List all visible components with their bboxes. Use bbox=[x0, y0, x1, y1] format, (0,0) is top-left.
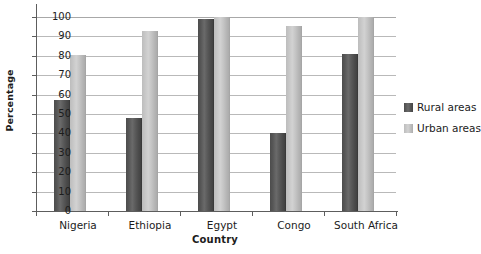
x-tick-mark bbox=[396, 212, 397, 216]
y-tick-label: 10 bbox=[31, 187, 71, 197]
x-category-label: South Africa bbox=[306, 219, 426, 231]
plot-area: NigeriaEthiopiaEgyptCongoSouth Africa bbox=[36, 4, 396, 211]
x-tick-mark bbox=[252, 212, 253, 216]
x-axis-title: Country bbox=[0, 234, 430, 245]
bar-egypt-urban bbox=[214, 17, 230, 211]
bar-south-africa-urban bbox=[358, 17, 374, 211]
y-axis-title: Percentage bbox=[4, 72, 15, 132]
y-tick-label: 90 bbox=[31, 31, 71, 41]
y-tick-label: 70 bbox=[31, 70, 71, 80]
bar-south-africa-rural bbox=[342, 54, 358, 211]
y-tick-label: 20 bbox=[31, 167, 71, 177]
legend-swatch-rural-icon bbox=[404, 103, 413, 112]
bar-ethiopia-rural bbox=[126, 118, 142, 211]
x-tick-mark bbox=[108, 212, 109, 216]
y-tick-label: 100 bbox=[31, 12, 71, 22]
bar-egypt-rural bbox=[198, 19, 214, 211]
bar-congo-urban bbox=[286, 26, 302, 211]
y-tick-label: 40 bbox=[31, 128, 71, 138]
legend-item-urban: Urban areas bbox=[404, 120, 481, 136]
legend: Rural areas Urban areas bbox=[404, 99, 481, 141]
bar-ethiopia-urban bbox=[142, 31, 158, 211]
bar-congo-rural bbox=[270, 133, 286, 211]
y-tick-label: 0 bbox=[31, 206, 71, 216]
x-tick-mark bbox=[180, 212, 181, 216]
x-axis-line bbox=[36, 211, 398, 212]
y-tick-label: 80 bbox=[31, 51, 71, 61]
y-tick-label: 50 bbox=[31, 109, 71, 119]
legend-item-rural: Rural areas bbox=[404, 99, 481, 115]
bar-nigeria-urban bbox=[70, 55, 86, 211]
y-tick-label: 30 bbox=[31, 148, 71, 158]
legend-label-rural: Rural areas bbox=[417, 102, 476, 113]
legend-label-urban: Urban areas bbox=[417, 123, 481, 134]
y-tick-label: 60 bbox=[31, 90, 71, 100]
legend-swatch-urban-icon bbox=[404, 124, 413, 133]
x-tick-mark bbox=[324, 212, 325, 216]
